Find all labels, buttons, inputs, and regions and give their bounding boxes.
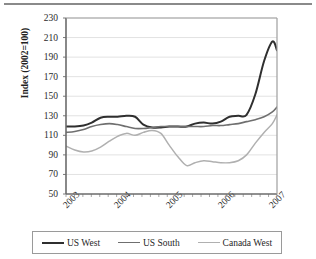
legend-label-us-west: US West <box>67 238 100 248</box>
legend-swatch-us-west <box>42 242 64 244</box>
data-series-line <box>66 41 277 128</box>
legend-item-canada-west: Canada West <box>198 238 272 248</box>
data-series-layer <box>66 41 277 166</box>
chart-legend: US West US South Canada West <box>32 231 282 254</box>
legend-item-us-west: US West <box>42 238 100 248</box>
legend-label-us-south: US South <box>143 238 180 248</box>
legend-swatch-us-south <box>118 242 140 243</box>
axis-frame <box>66 18 277 194</box>
legend-label-canada-west: Canada West <box>223 238 272 248</box>
chart-figure: Index (2002=100) 23021019017015013011090… <box>0 0 316 259</box>
legend-item-us-south: US South <box>118 238 180 248</box>
gridlines <box>63 18 277 194</box>
plot-area <box>0 0 316 259</box>
legend-swatch-canada-west <box>198 242 220 243</box>
